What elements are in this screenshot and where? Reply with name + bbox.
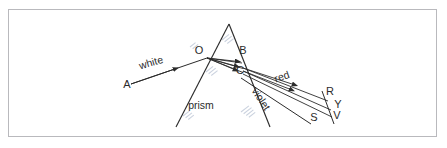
- point-label-R: R: [326, 85, 334, 97]
- label-white-ray: white: [136, 53, 164, 72]
- label-violet-ray: violet: [249, 85, 273, 112]
- point-label-B: B: [239, 44, 246, 56]
- label-red-ray: red: [273, 68, 291, 84]
- point-label-S: S: [310, 111, 317, 123]
- word-label-group: white prism red violet: [136, 53, 290, 112]
- point-label-C: C: [236, 64, 244, 76]
- dispersion-diagram: A O B C R Y V S white prism red violet: [0, 0, 447, 148]
- point-label-A: A: [123, 78, 131, 90]
- point-label-O: O: [195, 44, 204, 56]
- prism-dispersion-figure: A O B C R Y V S white prism red violet: [0, 0, 447, 148]
- point-label-V: V: [333, 109, 341, 121]
- violet-boundary-line: [241, 78, 311, 124]
- label-prism: prism: [188, 99, 214, 111]
